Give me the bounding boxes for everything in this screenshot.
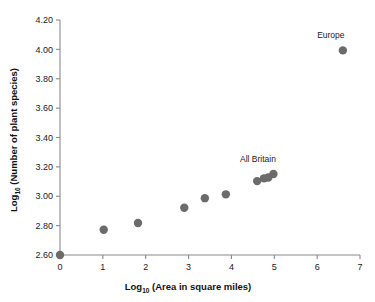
annotation-label: All Britain	[240, 154, 276, 164]
y-tick-marks	[56, 20, 60, 255]
data-point	[339, 46, 347, 54]
y-axis-group: 2.602.803.003.203.403.603.804.004.20	[35, 15, 60, 260]
scatter-plot-figure: 2.602.803.003.203.403.603.804.004.20 012…	[0, 0, 375, 302]
data-point	[56, 251, 64, 259]
y-tick-label: 4.00	[35, 45, 53, 55]
x-axis-group: 01234567	[57, 255, 362, 272]
x-tick-label: 2	[143, 262, 148, 272]
x-tick-marks	[60, 255, 360, 259]
y-tick-labels: 2.602.803.003.203.403.603.804.004.20	[35, 15, 53, 260]
y-tick-label: 2.80	[35, 221, 53, 231]
x-tick-label: 5	[272, 262, 277, 272]
y-tick-label: 3.20	[35, 162, 53, 172]
x-axis-title: Log10 (Area in square miles)	[125, 281, 252, 294]
data-point	[180, 204, 188, 212]
y-tick-label: 3.00	[35, 191, 53, 201]
data-point-series	[56, 46, 347, 259]
data-point	[222, 190, 230, 198]
y-tick-label: 3.80	[35, 74, 53, 84]
data-point	[134, 219, 142, 227]
y-tick-label: 3.60	[35, 103, 53, 113]
plot-canvas: 2.602.803.003.203.403.603.804.004.20 012…	[0, 0, 375, 302]
x-tick-label: 0	[57, 262, 62, 272]
data-point	[269, 170, 277, 178]
annotation-label: Europe	[317, 30, 345, 40]
point-annotations: EuropeAll Britain	[240, 30, 345, 164]
y-tick-label: 2.60	[35, 250, 53, 260]
y-tick-label: 3.40	[35, 133, 53, 143]
data-point	[201, 194, 209, 202]
x-tick-label: 3	[186, 262, 191, 272]
x-tick-label: 6	[315, 262, 320, 272]
x-tick-labels: 01234567	[57, 262, 362, 272]
x-tick-label: 4	[229, 262, 234, 272]
x-tick-label: 7	[357, 262, 362, 272]
y-axis-title: Log10 (Number of plant species)	[8, 68, 21, 212]
data-point	[100, 226, 108, 234]
y-tick-label: 4.20	[35, 15, 53, 25]
x-tick-label: 1	[100, 262, 105, 272]
